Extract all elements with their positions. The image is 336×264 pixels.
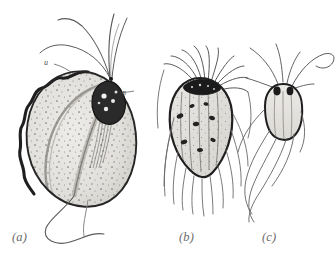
panel-a-kinetosome: [109, 77, 113, 81]
caption-c: (c): [262, 230, 276, 245]
label-nucleus: n: [122, 88, 126, 97]
caption-b: (b): [179, 230, 194, 245]
panel-c-apical-granule-left: [273, 87, 280, 96]
panel-c-apical-granule-right: [287, 87, 294, 95]
caption-a: (a): [12, 230, 27, 245]
label-undulating-membrane: u: [44, 58, 48, 67]
figure-plate: [0, 0, 336, 264]
